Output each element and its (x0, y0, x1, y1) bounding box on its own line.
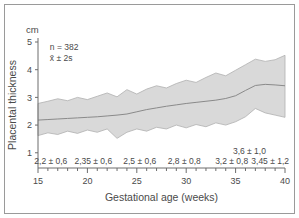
y-tick-label: 2 (27, 120, 32, 130)
y-unit-label: cm (26, 24, 39, 35)
y-tick-label: 1 (27, 148, 32, 158)
chart-annotation: n = 382 (50, 42, 79, 52)
x-tick-label: 15 (33, 176, 43, 186)
x-tick-label: 40 (280, 176, 290, 186)
interval-label: 2,2 ± 0,6 (34, 156, 67, 166)
y-axis-title: Placental thickness (6, 60, 18, 150)
interval-label: 3,45 ± 1,2 (251, 156, 289, 166)
y-tick-label: 3 (27, 93, 32, 103)
x-tick-label: 25 (132, 176, 142, 186)
chart-annotation: x̄ ± 2s (50, 53, 73, 63)
y-tick-label: 5 (27, 37, 32, 47)
x-tick-label: 35 (231, 176, 241, 186)
interval-label: 2,35 ± 0,6 (74, 156, 112, 166)
y-tick-label: 4 (27, 65, 32, 75)
x-axis-title: Gestational age (weeks) (105, 191, 218, 203)
interval-label: 3,2 ± 0,8 (215, 156, 248, 166)
interval-label: 2,5 ± 0,6 (123, 156, 156, 166)
confidence-band (38, 55, 285, 138)
interval-label: 2,8 ± 0,8 (168, 156, 201, 166)
x-tick-label: 20 (82, 176, 92, 186)
chart-annotation: 3,6 ± 1,0 (233, 146, 266, 156)
x-tick-label: 30 (181, 176, 191, 186)
placental-thickness-chart: 12345152025303540cmn = 382x̄ ± 2s3,6 ± 1… (0, 0, 299, 218)
chart-figure: 12345152025303540cmn = 382x̄ ± 2s3,6 ± 1… (0, 0, 299, 218)
